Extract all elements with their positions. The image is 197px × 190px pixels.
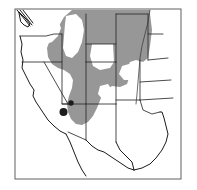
distribution-map-figure bbox=[0, 0, 197, 190]
map-canvas bbox=[0, 0, 197, 190]
occurrence-point-south bbox=[60, 108, 68, 116]
occurrence-point-north bbox=[68, 100, 73, 105]
wyoming-basin-gap bbox=[90, 44, 114, 70]
